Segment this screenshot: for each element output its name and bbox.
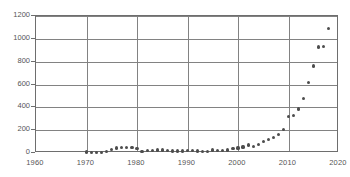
data-point — [317, 45, 320, 48]
data-point — [140, 150, 143, 153]
y-axis-tick-label: 800 — [0, 56, 30, 65]
data-point — [181, 149, 184, 152]
x-axis-tick-label: 2020 — [329, 158, 347, 167]
data-point — [221, 149, 224, 152]
data-point — [156, 148, 159, 151]
gridline-horizontal — [36, 39, 337, 40]
data-point — [186, 149, 189, 152]
gridline-horizontal — [36, 130, 337, 131]
data-point — [125, 146, 128, 149]
data-point — [105, 150, 108, 153]
gridline-horizontal — [36, 62, 337, 63]
gridline-vertical — [238, 16, 239, 151]
scatter-chart: 020040060080010001200 196019701980199020… — [0, 0, 350, 177]
x-axis-tick-label: 1990 — [178, 158, 196, 167]
data-point — [302, 97, 305, 100]
data-point — [272, 136, 275, 139]
data-point — [322, 45, 325, 48]
data-point — [171, 149, 174, 152]
data-point — [247, 143, 250, 146]
data-point — [287, 115, 290, 118]
data-point — [277, 133, 280, 136]
y-axis-tick-label: 400 — [0, 101, 30, 110]
data-point — [176, 149, 179, 152]
data-point — [90, 151, 93, 154]
data-point — [161, 148, 164, 151]
data-point — [292, 114, 295, 117]
data-point — [226, 148, 229, 151]
data-point — [252, 145, 255, 148]
data-point — [236, 146, 239, 149]
y-axis-tick-label: 1000 — [0, 33, 30, 42]
data-point — [196, 149, 199, 152]
data-point — [216, 149, 219, 152]
y-axis-tick-label: 1200 — [0, 10, 30, 19]
y-axis-tick-mark — [31, 152, 35, 153]
data-point — [312, 64, 315, 67]
data-point — [146, 149, 149, 152]
data-point — [241, 145, 244, 148]
data-point — [206, 150, 209, 153]
data-point — [211, 148, 214, 151]
data-point — [120, 146, 123, 149]
data-point — [110, 148, 113, 151]
data-point — [231, 147, 234, 150]
data-point — [297, 107, 300, 110]
data-point — [115, 146, 118, 149]
data-point — [201, 150, 204, 153]
data-point — [135, 147, 138, 150]
y-axis-tick-label: 200 — [0, 124, 30, 133]
gridline-vertical — [188, 16, 189, 151]
data-point — [85, 150, 88, 153]
data-point — [151, 149, 154, 152]
x-axis-tick-label: 2000 — [228, 158, 246, 167]
gridline-horizontal — [36, 16, 337, 17]
x-axis-tick-label: 2010 — [279, 158, 297, 167]
data-point — [267, 138, 270, 141]
data-point — [257, 143, 260, 146]
data-point — [95, 151, 98, 154]
gridline-vertical — [289, 16, 290, 151]
x-axis-tick-label: 1970 — [77, 158, 95, 167]
gridline-vertical — [137, 16, 138, 151]
data-point — [191, 149, 194, 152]
data-point — [327, 27, 330, 30]
y-axis-tick-label: 0 — [0, 147, 30, 156]
x-axis-tick-label: 1980 — [127, 158, 145, 167]
y-axis-tick-label: 600 — [0, 79, 30, 88]
gridline-horizontal — [36, 107, 337, 108]
gridline-horizontal — [36, 85, 337, 86]
gridline-vertical — [87, 16, 88, 151]
data-point — [166, 149, 169, 152]
data-point — [262, 140, 265, 143]
data-point — [100, 151, 103, 154]
data-point — [130, 146, 133, 149]
x-axis-tick-label: 1960 — [26, 158, 44, 167]
plot-area — [35, 15, 338, 152]
